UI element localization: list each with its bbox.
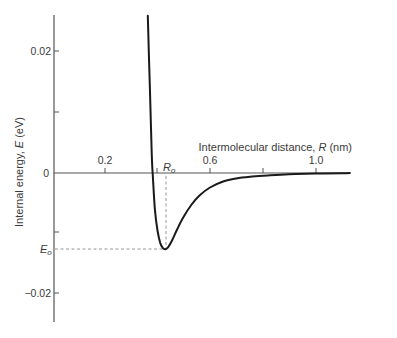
y-axis-title: Internal energy, E (eV)	[13, 117, 25, 227]
x-tick-label-0.2: 0.2	[98, 154, 113, 166]
x-tick-label-0.6: 0.6	[203, 154, 218, 166]
e0-label: Eo	[40, 243, 52, 257]
x-ticks	[105, 168, 316, 173]
r0-label: Ro	[163, 161, 176, 175]
x-axis-title: Intermolecular distance, R (nm)	[199, 141, 352, 153]
y-tick-label-0.02: 0.02	[31, 45, 52, 57]
x-tick-label-1.0: 1.0	[309, 154, 324, 166]
y-tick-label-0: 0	[43, 167, 49, 179]
y-tick-label-neg-0.02: −0.02	[24, 287, 51, 299]
potential-energy-chart: 0.02 0 −0.02 0.2 0.6 1.0 Intermolecular …	[0, 0, 397, 338]
potential-energy-curve	[148, 16, 350, 250]
y-ticks	[54, 51, 59, 293]
